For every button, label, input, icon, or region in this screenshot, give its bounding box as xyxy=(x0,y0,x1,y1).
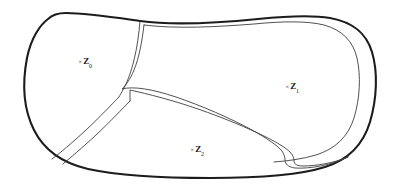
region-label-z2: ×Z2 xyxy=(190,145,205,156)
region-label-z2-subscript: 2 xyxy=(201,151,204,157)
region-label-z1-subscript: 1 xyxy=(296,88,299,94)
region-label-z1: ×Z1 xyxy=(285,82,300,93)
region-partition-figure xyxy=(0,0,399,193)
region-label-z0: ×Z0 xyxy=(78,57,93,68)
diagram-canvas: ×Z0 ×Z1 ×Z2 xyxy=(0,0,399,193)
region-label-z0-subscript: 0 xyxy=(89,63,92,69)
